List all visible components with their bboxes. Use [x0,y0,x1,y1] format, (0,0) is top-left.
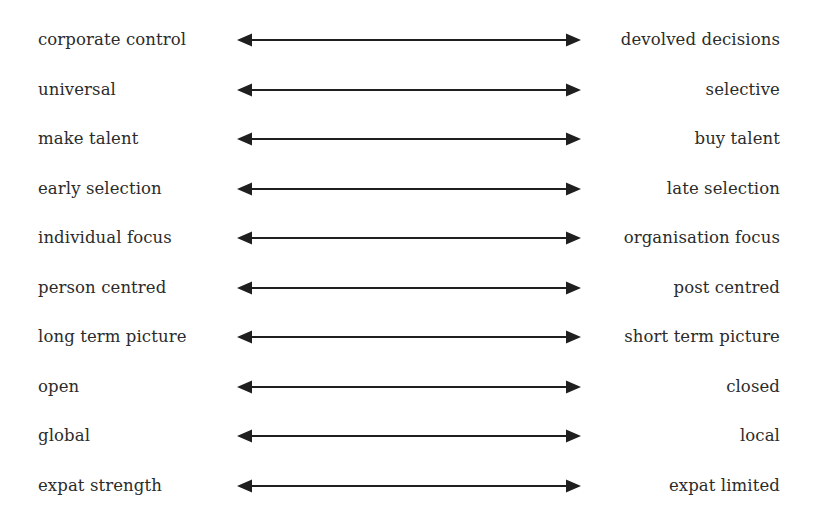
double-headed-arrow-icon [236,172,582,206]
continuum-row: universalselective [0,73,816,107]
double-headed-arrow-icon [236,271,582,305]
continuum-left-label: make talent [38,129,138,149]
continuum-left-label: corporate control [38,30,186,50]
double-headed-arrow-icon [236,221,582,255]
continuum-row: early selectionlate selection [0,172,816,206]
continuum-left-label: expat strength [38,476,162,496]
continuum-left-label: individual focus [38,228,172,248]
continuum-right-label: selective [706,80,780,100]
continuum-left-label: early selection [38,179,162,199]
continuum-row: individual focusorganisation focus [0,221,816,255]
continuum-right-label: short term picture [624,327,780,347]
continuum-row: globallocal [0,419,816,453]
continuum-row: make talentbuy talent [0,122,816,156]
double-headed-arrow-icon [236,370,582,404]
continuum-diagram: corporate controldevolved decisionsunive… [0,0,816,522]
double-headed-arrow-icon [236,320,582,354]
continuum-left-label: long term picture [38,327,187,347]
continuum-left-label: global [38,426,90,446]
continuum-left-label: person centred [38,278,166,298]
continuum-right-label: buy talent [694,129,780,149]
continuum-right-label: late selection [667,179,780,199]
continuum-right-label: local [740,426,780,446]
continuum-right-label: post centred [673,278,780,298]
double-headed-arrow-icon [236,469,582,503]
continuum-row: openclosed [0,370,816,404]
continuum-right-label: expat limited [669,476,780,496]
double-headed-arrow-icon [236,23,582,57]
continuum-left-label: open [38,377,79,397]
double-headed-arrow-icon [236,122,582,156]
continuum-right-label: organisation focus [624,228,780,248]
continuum-row: long term pictureshort term picture [0,320,816,354]
continuum-right-label: closed [726,377,780,397]
double-headed-arrow-icon [236,73,582,107]
continuum-left-label: universal [38,80,116,100]
continuum-right-label: devolved decisions [621,30,780,50]
double-headed-arrow-icon [236,419,582,453]
continuum-row: person centredpost centred [0,271,816,305]
continuum-row: expat strengthexpat limited [0,469,816,503]
continuum-row: corporate controldevolved decisions [0,23,816,57]
